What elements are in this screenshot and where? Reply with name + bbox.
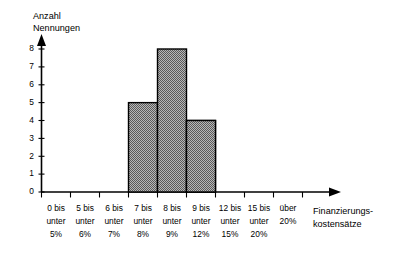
bar-0 bbox=[129, 103, 158, 192]
category-line: unter bbox=[75, 216, 94, 226]
y-tick-label: 6 bbox=[29, 79, 34, 89]
category-line: 5 bis bbox=[76, 203, 94, 213]
y-tick-label: 0 bbox=[29, 186, 34, 196]
category-label-5: 9 bis unter 12% bbox=[191, 203, 210, 239]
category-line: 8 bis bbox=[163, 203, 181, 213]
category-line: 6% bbox=[79, 229, 92, 239]
x-axis-category-labels: 0 bis unter 5% 5 bis unter 6% 6 bis unte… bbox=[46, 203, 296, 239]
category-line: 6 bis bbox=[105, 203, 123, 213]
category-line: unter bbox=[249, 216, 268, 226]
y-axis-tick-labels: 0 1 2 3 4 5 6 7 8 bbox=[29, 43, 34, 196]
category-label-7: 15 bis unter 20% bbox=[248, 203, 270, 239]
y-tick-label: 8 bbox=[29, 43, 34, 53]
category-line: 8% bbox=[137, 229, 150, 239]
category-line: 9 bis bbox=[192, 203, 210, 213]
category-line: 7% bbox=[108, 229, 121, 239]
category-line: 15% bbox=[222, 229, 239, 239]
y-tick-label: 1 bbox=[29, 168, 34, 178]
category-line: 9% bbox=[166, 229, 179, 239]
category-line: 15 bis bbox=[248, 203, 270, 213]
category-line: unter bbox=[46, 216, 65, 226]
category-line: unter bbox=[162, 216, 181, 226]
x-axis-title-line2: kostensätze bbox=[313, 219, 362, 229]
histogram-chart: Anzahl Nennungen 0 1 2 3 bbox=[0, 0, 401, 254]
bar-3 bbox=[187, 121, 216, 193]
chart-canvas: Anzahl Nennungen 0 1 2 3 bbox=[0, 0, 401, 254]
category-line: unter bbox=[104, 216, 123, 226]
y-tick-label: 7 bbox=[29, 61, 34, 71]
category-line: unter bbox=[220, 216, 239, 226]
category-line: 7 bis bbox=[134, 203, 152, 213]
category-line: 0 bis bbox=[47, 203, 65, 213]
category-line: 20% bbox=[280, 216, 297, 226]
x-axis-title-line1: Finanzierungs- bbox=[313, 206, 373, 216]
y-tick-label: 2 bbox=[29, 151, 34, 161]
category-line: über bbox=[280, 203, 297, 213]
y-axis-title-line2: Nennungen bbox=[33, 23, 80, 33]
y-tick-label: 5 bbox=[29, 97, 34, 107]
bar-1 bbox=[158, 49, 187, 192]
category-line: 12% bbox=[193, 229, 210, 239]
category-line: unter bbox=[133, 216, 152, 226]
y-tick-label: 3 bbox=[29, 133, 34, 143]
category-line: unter bbox=[191, 216, 210, 226]
y-tick-label: 4 bbox=[29, 115, 34, 125]
category-line: 20% bbox=[251, 229, 268, 239]
category-line: 5% bbox=[50, 229, 63, 239]
category-line: 12 bis bbox=[219, 203, 241, 213]
category-label-6: 12 bis unter 15% bbox=[219, 203, 241, 239]
y-axis-title-line1: Anzahl bbox=[33, 11, 61, 21]
